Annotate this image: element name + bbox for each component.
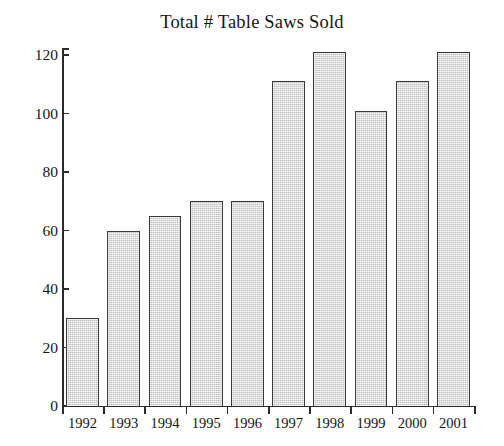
x-axis-tick-label: 2001 xyxy=(433,416,474,431)
x-axis-tick-label: 1996 xyxy=(227,416,268,431)
y-axis-tick-label: 100 xyxy=(20,106,58,122)
x-axis-tick xyxy=(392,406,394,414)
x-axis-tick xyxy=(227,406,229,414)
bar-1997 xyxy=(272,81,305,406)
bar-1999 xyxy=(355,111,388,406)
bar-1993 xyxy=(107,231,140,407)
bar-2000 xyxy=(396,81,429,406)
x-axis-tick-label: 1994 xyxy=(144,416,185,431)
x-axis-tick xyxy=(144,406,146,414)
x-axis-tick-label: 1993 xyxy=(103,416,144,431)
x-axis-tick xyxy=(433,406,435,414)
x-axis-tick-label: 2000 xyxy=(392,416,433,431)
bar-1996 xyxy=(231,201,264,406)
bars-container xyxy=(62,48,474,406)
y-axis-tick-label: 0 xyxy=(20,398,58,414)
x-axis-tick xyxy=(62,406,64,414)
x-axis-tick-label: 1998 xyxy=(309,416,350,431)
bar-2001 xyxy=(437,52,470,406)
y-axis-tick-label: 80 xyxy=(20,164,58,180)
y-axis-tick-label: 20 xyxy=(20,340,58,356)
x-axis-tick-label: 1997 xyxy=(268,416,309,431)
y-axis-tick-label: 40 xyxy=(20,281,58,297)
y-axis-tick-label: 120 xyxy=(20,47,58,63)
bar-1992 xyxy=(66,318,99,406)
x-axis-tick xyxy=(309,406,311,414)
x-axis-tick xyxy=(474,406,476,414)
x-axis-tick xyxy=(350,406,352,414)
bar-chart: Total # Table Saws Sold 020406080100120 … xyxy=(0,0,504,446)
y-axis-tick-label: 60 xyxy=(20,223,58,239)
bar-1994 xyxy=(149,216,182,406)
x-axis-tick-label: 1995 xyxy=(186,416,227,431)
chart-title: Total # Table Saws Sold xyxy=(0,12,504,33)
bar-1995 xyxy=(190,201,223,406)
x-axis-tick xyxy=(103,406,105,414)
x-axis-tick-label: 1992 xyxy=(62,416,103,431)
x-axis-tick xyxy=(268,406,270,414)
x-axis-tick-label: 1999 xyxy=(350,416,391,431)
y-axis-tick-labels: 020406080100120 xyxy=(14,0,58,446)
x-axis-tick xyxy=(186,406,188,414)
bar-1998 xyxy=(313,52,346,406)
